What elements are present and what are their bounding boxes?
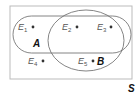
- svg-text:E1: E1: [18, 22, 28, 33]
- venn-diagram: E1 E2 E3 A E4 E5 B S: [0, 0, 140, 95]
- outcome-e2: E2: [62, 22, 78, 33]
- outcome-dot: [92, 60, 95, 63]
- outcome-dot: [32, 26, 35, 29]
- svg-text:E5: E5: [78, 56, 88, 67]
- outcome-e3: E3: [97, 22, 112, 33]
- outcome-e5: E5: [78, 56, 94, 67]
- outcome-dot: [76, 26, 79, 29]
- svg-text:E3: E3: [97, 22, 107, 33]
- svg-text:E2: E2: [62, 22, 72, 33]
- sample-space-frame: [10, 6, 132, 79]
- outcome-dot: [42, 60, 45, 63]
- set-a-region: [13, 16, 131, 53]
- outcome-e4: E4: [28, 56, 44, 67]
- set-a-label: A: [32, 38, 40, 49]
- universe-label: S: [128, 83, 135, 94]
- svg-text:E4: E4: [28, 56, 38, 67]
- set-b-label: B: [97, 56, 104, 67]
- outcome-dot: [110, 26, 113, 29]
- outcome-e1: E1: [18, 22, 34, 33]
